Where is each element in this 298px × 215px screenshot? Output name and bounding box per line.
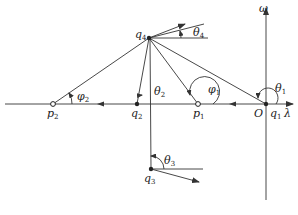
svg-text:θ1: θ1 <box>275 82 286 96</box>
svg-text:q1: q1 <box>270 107 282 121</box>
omega-label: ω <box>259 2 268 15</box>
q2-label: q <box>131 107 138 120</box>
point-q2 <box>135 102 139 106</box>
q1-label: q <box>270 107 277 120</box>
svg-text:θ2: θ2 <box>154 85 165 99</box>
point-p1 <box>196 102 201 107</box>
p2-label: p <box>47 107 54 120</box>
q3-label: q <box>144 172 151 185</box>
lambda-label: λ <box>283 107 291 120</box>
origin-label: O <box>254 107 263 120</box>
root-locus-diagram: λ ω O q1 q2 q3 q4 p1 p2 θ1 θ2 θ3 θ4 φ1 φ… <box>0 0 298 215</box>
p1-label: p <box>193 107 200 120</box>
q4-label: q <box>135 28 142 41</box>
svg-text:θ3: θ3 <box>164 154 175 168</box>
svg-text:q4: q4 <box>135 28 147 42</box>
svg-text:p1: p1 <box>193 107 205 121</box>
point-q4 <box>147 36 151 40</box>
svg-text:q3: q3 <box>144 172 156 186</box>
point-p2 <box>51 102 56 107</box>
svg-text:p2: p2 <box>47 107 59 121</box>
svg-text:q2: q2 <box>131 107 143 121</box>
point-q3 <box>149 167 153 171</box>
point-q1 <box>264 102 268 106</box>
svg-text:θ4: θ4 <box>193 26 205 40</box>
svg-text:φ2: φ2 <box>77 90 89 104</box>
